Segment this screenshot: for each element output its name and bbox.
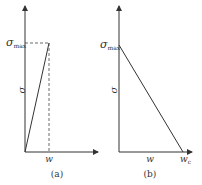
diagram: σmax σ w (a) σmax σ w wc (b) — [0, 0, 202, 185]
y-label-b: σ — [108, 85, 119, 93]
y-label-a: σ — [16, 85, 27, 93]
sigma-max-label-a: σmax — [6, 36, 27, 49]
curve-a — [25, 43, 49, 152]
curve-b — [119, 45, 183, 152]
caption-a: (a) — [51, 169, 63, 179]
x-label-a: w — [45, 154, 53, 164]
panel-a: σmax σ w (a) — [6, 6, 98, 179]
caption-b: (b) — [144, 169, 157, 179]
x-label-b: w — [146, 154, 154, 164]
sigma-max-label-b: σmax — [100, 38, 121, 51]
x-end-label-b: wc — [180, 154, 192, 165]
panel-b: σmax σ w wc (b) — [100, 6, 192, 179]
